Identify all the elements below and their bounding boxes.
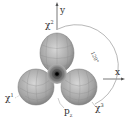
- x-axis-arrow-icon: [121, 78, 125, 81]
- chi3-label: χ3: [95, 103, 104, 113]
- orbital-diagram: [0, 0, 126, 125]
- chi1-label: χ1: [5, 93, 14, 103]
- chi2-label: χ2: [45, 20, 54, 30]
- x-axis-label: x: [115, 68, 120, 77]
- y-axis-arrow-icon: [56, 2, 59, 6]
- pz-label: pz: [64, 107, 72, 118]
- y-axis-label: y: [60, 6, 65, 15]
